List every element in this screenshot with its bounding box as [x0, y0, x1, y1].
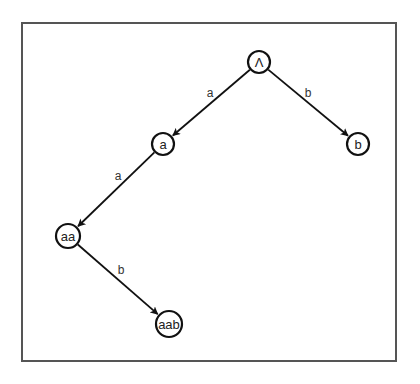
tree-diagram: abab Λabaaaab [0, 0, 420, 384]
arrow-icon [78, 152, 154, 226]
node-aa: aa [56, 224, 80, 248]
node-aab: aab [156, 311, 182, 337]
edge-root-a: a [173, 70, 250, 136]
node-label: aa [61, 229, 76, 244]
node-a: a [152, 133, 174, 155]
arrow-icon [173, 70, 250, 136]
node-root: Λ [248, 51, 270, 73]
node-label: b [354, 137, 361, 152]
node-label: Λ [255, 55, 264, 70]
edge-label: a [115, 169, 122, 183]
edge-label: b [305, 86, 312, 100]
node-label: a [159, 137, 167, 152]
edge-a-aa: a [78, 152, 154, 226]
edge-aa-aab: b [78, 245, 158, 315]
edge-label: b [118, 263, 125, 277]
edge-root-b: b [268, 70, 348, 136]
node-b: b [347, 133, 369, 155]
arrow-icon [78, 245, 158, 315]
edges-layer: abab [78, 70, 348, 314]
edge-label: a [207, 86, 214, 100]
arrow-icon [268, 70, 348, 136]
node-label: aab [158, 317, 180, 332]
